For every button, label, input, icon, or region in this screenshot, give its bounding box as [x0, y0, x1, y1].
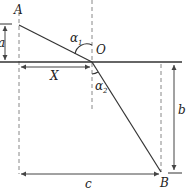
alpha2-arc [92, 72, 98, 74]
label-alpha2: α2 [95, 79, 108, 95]
label-B: B [159, 176, 169, 190]
label-X: X [49, 69, 59, 83]
label-a: a [0, 36, 5, 50]
label-c: c [85, 177, 92, 191]
refraction-diagram: A O B α1 α2 a X b c [0, 0, 190, 194]
label-alpha1: α1 [70, 31, 83, 47]
label-b: b [178, 103, 186, 117]
label-A: A [13, 3, 23, 17]
label-O: O [96, 43, 106, 57]
